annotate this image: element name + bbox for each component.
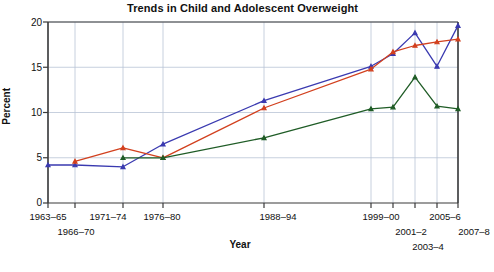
chart-container: Trends in Child and Adolescent Overweigh… — [0, 0, 485, 272]
plot-area — [0, 0, 485, 272]
